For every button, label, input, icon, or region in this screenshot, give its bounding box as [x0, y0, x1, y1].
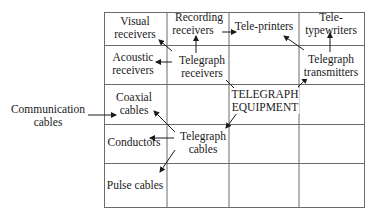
node-communication-cables: Communication cables: [11, 103, 85, 129]
node-acoustic-receivers: Acoustic receivers: [112, 51, 154, 77]
node-telegraph-cables: Telegraph cables: [179, 130, 227, 156]
node-telegraph-equipment: TELEGRAPH EQUIPMENT: [230, 88, 299, 114]
node-visual-receivers: Visual receivers: [114, 15, 156, 41]
node-coaxial-cables: Coaxial cables: [116, 91, 152, 117]
node-telegraph-receivers: Telegraph receivers: [178, 54, 226, 80]
node-conductors: Conductors: [107, 136, 160, 149]
node-tele-typewriters: Tele- typewriters: [305, 11, 357, 37]
node-pulse-cables: Pulse cables: [107, 179, 164, 192]
node-tele-printers: Tele-printers: [235, 20, 294, 33]
node-telegraph-transmitters: Telegraph transmitters: [303, 53, 359, 79]
node-recording-receivers: Recording receivers: [175, 11, 223, 37]
